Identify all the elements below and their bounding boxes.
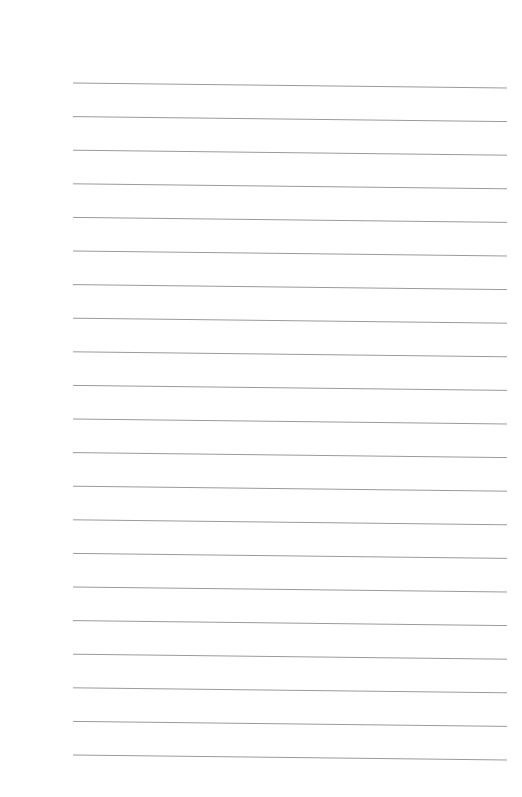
- ruled-line: [73, 419, 507, 424]
- ruled-line: [73, 150, 507, 155]
- lined-paper-page: [0, 0, 522, 797]
- ruled-line: [73, 688, 507, 693]
- ruled-line: [73, 553, 507, 558]
- ruled-line: [73, 251, 507, 256]
- ruled-line: [73, 654, 507, 659]
- ruled-line: [73, 520, 507, 525]
- ruled-line: [73, 721, 507, 726]
- ruled-line: [73, 285, 507, 290]
- ruled-line: [73, 217, 507, 222]
- ruled-lines: [0, 0, 522, 797]
- ruled-line: [73, 621, 507, 626]
- ruled-line: [73, 385, 507, 390]
- ruled-line: [73, 486, 507, 491]
- ruled-line: [73, 453, 507, 458]
- ruled-line: [73, 587, 507, 592]
- ruled-line: [73, 755, 507, 760]
- ruled-line: [73, 184, 507, 189]
- ruled-line: [73, 83, 507, 88]
- ruled-line: [73, 117, 507, 122]
- ruled-line: [73, 318, 507, 323]
- ruled-line: [73, 352, 507, 357]
